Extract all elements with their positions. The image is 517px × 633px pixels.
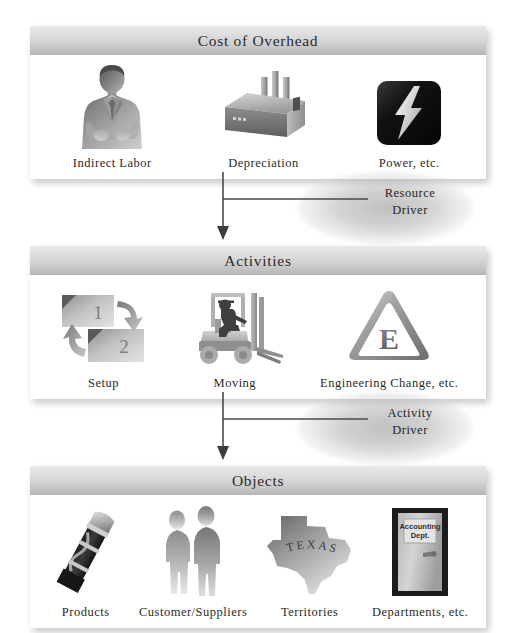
setup-cycle-icon: 1 2 [58,285,150,369]
driver-label-line2: Driver [355,422,465,439]
warning-triangle-e-icon: E [345,287,433,369]
item-label-departments: Departments, etc. [372,605,468,620]
item-moving[interactable]: Moving [185,285,285,391]
driver-label-activity: Activity Driver [355,405,465,439]
item-engineering-change[interactable]: E Engineering Change, etc. [320,287,458,391]
connector-resource-driver: Resource Driver [30,170,486,246]
forklift-icon [185,285,285,369]
item-departments[interactable]: Accounting Dept. Departments, etc. [372,506,468,620]
item-label-products: Products [62,605,110,620]
item-label-customer-suppliers: Customer/Suppliers [139,605,247,620]
item-setup[interactable]: 1 2 Setup [58,285,150,391]
two-people-icon [154,506,232,598]
driver-label-line1: Resource [355,185,465,202]
driver-label-line1: Activity [355,405,465,422]
item-power[interactable]: Power, etc. [375,79,443,171]
driver-label-resource: Resource Driver [355,185,465,219]
panel-body-objects: Products [30,495,486,628]
item-indirect-labor[interactable]: Indirect Labor [73,63,152,171]
item-label-moving: Moving [214,376,257,391]
item-label-indirect-labor: Indirect Labor [73,156,152,171]
panel-title-objects: Objects [232,472,284,490]
driver-label-line2: Driver [355,202,465,219]
panel-title-cost-of-overhead: Cost of Overhead [198,32,319,50]
svg-text:1: 1 [93,302,103,323]
item-depreciation[interactable]: Depreciation [217,67,309,171]
svg-text:2: 2 [119,336,129,357]
connector-activity-driver: Activity Driver [30,390,486,466]
panel-objects: Objects [30,466,486,628]
item-label-setup: Setup [88,376,119,391]
panel-header-activities: Activities [30,246,486,275]
item-label-engineering-change: Engineering Change, etc. [320,376,458,391]
panel-body-cost-of-overhead: Indirect Labor [30,55,486,179]
flashlight-icon [48,506,124,598]
panel-header-objects: Objects [30,466,486,495]
door-sign-line2: Dept. [411,531,430,540]
factory-icon [217,67,309,149]
door-sign-line1: Accounting [400,522,442,531]
abc-flow-diagram: Cost of Overhead [0,0,517,633]
panel-title-activities: Activities [224,252,291,270]
panel-cost-of-overhead: Cost of Overhead [30,26,486,179]
panel-body-activities: 1 2 Setup [30,275,486,399]
item-territories[interactable]: TEXAS Territories [263,510,357,620]
item-label-depreciation: Depreciation [228,156,299,171]
panel-header-cost-of-overhead: Cost of Overhead [30,26,486,55]
businessman-icon [73,63,151,149]
lightning-bolt-icon [375,79,443,149]
item-label-power: Power, etc. [379,156,440,171]
item-products[interactable]: Products [48,506,124,620]
texas-map-icon: TEXAS [263,510,357,598]
door-icon: Accounting Dept. [389,506,451,598]
panel-activities: Activities [30,246,486,399]
item-label-territories: Territories [281,605,338,620]
svg-text:E: E [379,322,399,355]
item-customer-suppliers[interactable]: Customer/Suppliers [139,506,247,620]
